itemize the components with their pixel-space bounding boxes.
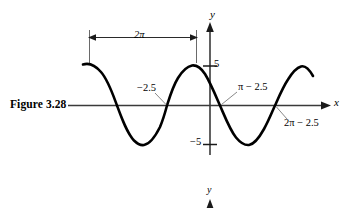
sine-curve [83,64,313,145]
y-tick-label-positive: 5 [214,58,219,69]
period-label: 2π [134,29,145,40]
zero-crossing-label-1: −2.5 [137,82,156,93]
x-axis-label: x [334,96,339,108]
y-tick-label-negative: −5 [190,136,201,147]
figure-3-28: Figure 3.28 [0,0,346,208]
zero-crossing-label-3: 2π − 2.5 [284,117,319,128]
next-figure-y-axis-label: y [207,184,211,195]
x-axis [68,102,331,110]
graph-canvas [0,0,346,208]
next-figure-axis-stub [207,199,214,208]
y-axis-label: y [210,8,215,20]
zero-crossing-label-2: π − 2.5 [238,81,268,92]
